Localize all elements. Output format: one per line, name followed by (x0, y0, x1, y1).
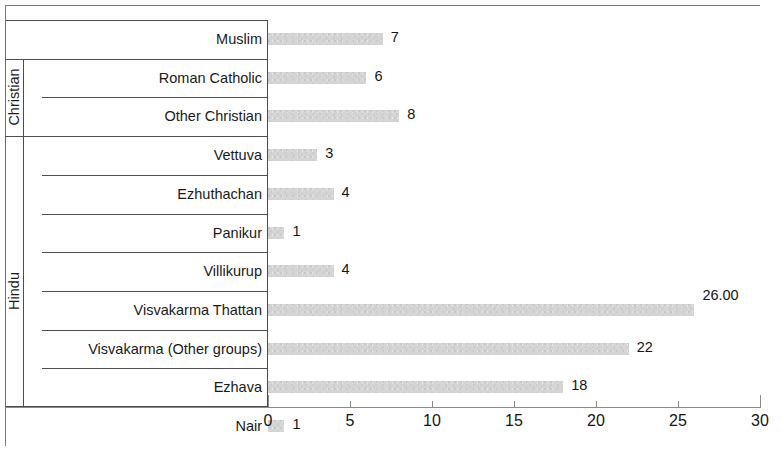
bar-row: 4 (268, 252, 760, 291)
x-axis-tick-label: 10 (423, 412, 441, 430)
bar-row: 3 (268, 136, 760, 175)
bar (268, 33, 383, 45)
category-row: Ezhuthachan (5, 175, 268, 214)
bar-value-label: 22 (637, 339, 653, 355)
x-axis-ticks (268, 401, 760, 408)
category-row: Ezhava (5, 368, 268, 407)
category-label-table: MuslimRoman CatholicOther ChristianVettu… (5, 20, 268, 407)
category-label: Ezhava (214, 368, 262, 407)
religion-group-label: Christian (5, 59, 23, 136)
bar-row: 8 (268, 97, 760, 136)
category-label: Visvakarma Thattan (134, 291, 262, 330)
category-label: Panikur (213, 214, 262, 253)
bar-value-label: 6 (374, 68, 382, 84)
bar-row: 1 (268, 214, 760, 253)
bar-value-label: 4 (342, 261, 350, 277)
category-row: Visvakarma Thattan (5, 291, 268, 330)
bar (268, 227, 284, 239)
religion-group-label-text: Christian (6, 69, 22, 126)
category-label: Vettuva (214, 136, 262, 175)
bar (268, 381, 563, 393)
category-row: Muslim (5, 20, 268, 59)
bar (268, 72, 366, 84)
bar-row: 6 (268, 59, 760, 98)
x-axis-tick (432, 401, 433, 408)
bar (268, 304, 694, 316)
x-axis-tick (268, 401, 269, 408)
bar (268, 343, 629, 355)
x-axis-tick-label: 20 (587, 412, 605, 430)
category-row: Vettuva (5, 136, 268, 175)
bar-value-label: 1 (292, 223, 300, 239)
category-label: Visvakarma (Other groups) (88, 330, 262, 369)
bar-value-label: 8 (407, 106, 415, 122)
x-axis-tick (760, 401, 761, 408)
bar-value-label: 4 (342, 184, 350, 200)
category-row: Other Christian (5, 97, 268, 136)
category-label: Roman Catholic (159, 59, 262, 98)
x-axis-tick (350, 401, 351, 408)
bar-chart: MuslimRoman CatholicOther ChristianVettu… (0, 0, 781, 454)
bar-row: 26.00 (268, 291, 760, 330)
x-axis-tick-label: 15 (505, 412, 523, 430)
x-axis-tick-label: 5 (346, 412, 355, 430)
category-label: Other Christian (164, 97, 262, 136)
bar-value-label: 26.00 (702, 287, 738, 303)
bar-row: 4 (268, 175, 760, 214)
category-row: Panikur (5, 214, 268, 253)
category-row: Villikurup (5, 252, 268, 291)
bar (268, 265, 334, 277)
x-axis-tick (514, 401, 515, 408)
category-label: Villikurup (203, 252, 262, 291)
bar-value-label: 3 (325, 145, 333, 161)
x-axis-tick (596, 401, 597, 408)
category-label: Ezhuthachan (177, 175, 262, 214)
category-row: Roman Catholic (5, 59, 268, 98)
x-axis-tick (678, 401, 679, 408)
category-label: Muslim (216, 20, 262, 59)
bar (268, 149, 317, 161)
bar-value-label: 7 (391, 29, 399, 45)
bar-value-label: 1 (292, 416, 300, 432)
x-axis-tick-label: 25 (669, 412, 687, 430)
x-axis-tick-label: 30 (751, 412, 769, 430)
religion-group-label-text: Hindu (6, 272, 22, 310)
religion-group-label: Hindu (5, 136, 23, 446)
x-axis-tick-label: 0 (264, 412, 273, 430)
bar-value-label: 18 (571, 377, 587, 393)
bar-row: 22 (268, 330, 760, 369)
bar (268, 110, 399, 122)
category-row: Nair (5, 407, 268, 446)
bar (268, 188, 334, 200)
bar-row: 7 (268, 20, 760, 59)
plot-area: 768341426.0022181 (268, 20, 760, 407)
category-label: Nair (235, 407, 262, 446)
category-row: Visvakarma (Other groups) (5, 330, 268, 369)
